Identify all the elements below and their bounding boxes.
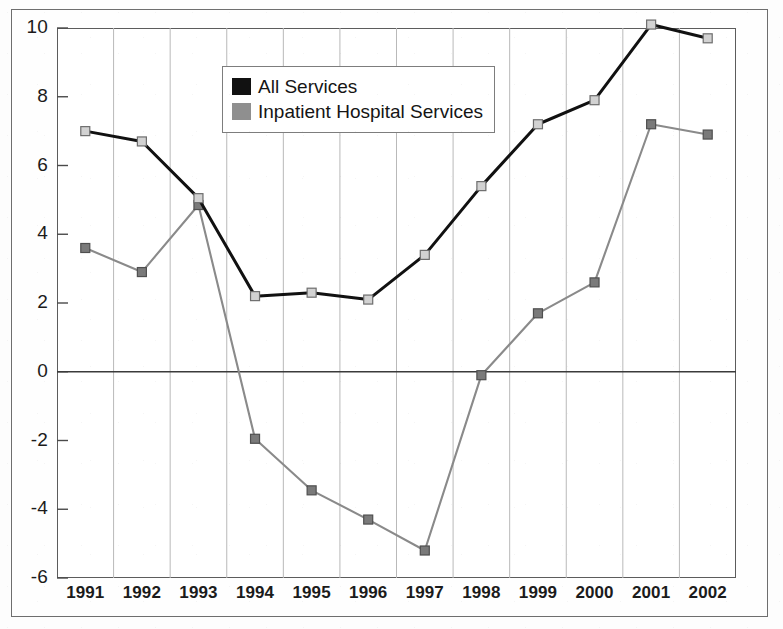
data-point-marker — [137, 268, 146, 277]
x-tick-label: 2001 — [632, 583, 670, 603]
data-point-marker — [703, 34, 712, 43]
y-tick-label: 6 — [0, 154, 48, 176]
y-axis-labels: 1086420-2-4-6 — [0, 0, 55, 629]
legend-swatch-inpatient-hospital-services — [232, 103, 251, 120]
chart-figure: 1086420-2-4-6 19911992199319941995199619… — [0, 0, 783, 629]
y-tick-label: -4 — [0, 497, 48, 519]
data-point-marker — [194, 194, 203, 203]
y-tick-label: 8 — [0, 85, 48, 107]
legend-swatch-all-services — [232, 78, 251, 95]
x-tick-label: 1993 — [179, 583, 217, 603]
legend-label-all-services: All Services — [258, 77, 357, 96]
data-point-marker — [251, 292, 260, 301]
x-tick-label: 2002 — [689, 583, 727, 603]
x-tick-label: 1991 — [66, 583, 104, 603]
data-point-marker — [81, 244, 90, 253]
x-axis-labels: 1991199219931994199519961997199819992000… — [57, 583, 736, 617]
data-point-marker — [647, 120, 656, 129]
x-tick-label: 1994 — [236, 583, 274, 603]
data-point-marker — [533, 309, 542, 318]
x-tick-label: 1997 — [406, 583, 444, 603]
data-point-marker — [533, 120, 542, 129]
data-point-marker — [647, 20, 656, 29]
data-point-marker — [137, 137, 146, 146]
y-tick-label: -2 — [0, 429, 48, 451]
data-point-marker — [251, 434, 260, 443]
x-tick-label: 2000 — [575, 583, 613, 603]
y-tick-label: 4 — [0, 222, 48, 244]
x-tick-label: 1995 — [293, 583, 331, 603]
legend-item-inpatient-hospital-services: Inpatient Hospital Services — [232, 99, 483, 124]
x-tick-label: 1996 — [349, 583, 387, 603]
data-point-marker — [420, 250, 429, 259]
legend-item-all-services: All Services — [232, 74, 483, 99]
y-tick-label: 2 — [0, 291, 48, 313]
data-point-marker — [307, 288, 316, 297]
x-tick-label: 1992 — [123, 583, 161, 603]
data-point-marker — [477, 182, 486, 191]
y-tick-label: 0 — [0, 360, 48, 382]
chart-legend: All Services Inpatient Hospital Services — [222, 66, 495, 133]
data-point-marker — [81, 127, 90, 136]
data-point-marker — [420, 546, 429, 555]
data-point-marker — [364, 295, 373, 304]
x-tick-label: 1999 — [519, 583, 557, 603]
data-point-marker — [590, 278, 599, 287]
data-point-marker — [703, 130, 712, 139]
x-tick-label: 1998 — [462, 583, 500, 603]
data-point-marker — [477, 371, 486, 380]
y-tick-label: 10 — [0, 16, 48, 38]
y-tick-label: -6 — [0, 566, 48, 588]
data-point-marker — [307, 486, 316, 495]
legend-label-inpatient-hospital-services: Inpatient Hospital Services — [258, 102, 483, 121]
data-point-marker — [590, 96, 599, 105]
data-point-marker — [364, 515, 373, 524]
